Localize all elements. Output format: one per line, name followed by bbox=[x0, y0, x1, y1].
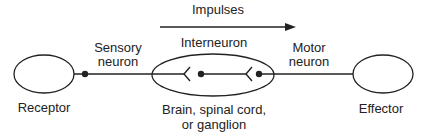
motor-neuron-label-line2: neuron bbox=[289, 54, 329, 69]
sensory-neuron-label-line2: neuron bbox=[98, 54, 138, 69]
reflex-arc-diagram: Impulses Receptor Sensory neuron Brain, … bbox=[0, 0, 423, 137]
cns-label-line1: Brain, spinal cord, bbox=[162, 102, 266, 117]
cns-label-line2: or ganglion bbox=[182, 117, 246, 132]
motor-neuron-label-line1: Motor bbox=[292, 40, 326, 55]
cns-node bbox=[152, 54, 274, 96]
sensory-neuron-label-line1: Sensory bbox=[94, 40, 142, 55]
sensory-synapse-fork bbox=[184, 67, 190, 81]
effector-node bbox=[353, 55, 413, 93]
interneuron-synapse-fork bbox=[246, 67, 252, 81]
effector-label: Effector bbox=[359, 101, 404, 116]
receptor-label: Receptor bbox=[18, 100, 71, 115]
interneuron-label: Interneuron bbox=[181, 35, 248, 50]
impulses-label: Impulses bbox=[192, 2, 245, 17]
receptor-node bbox=[14, 55, 74, 93]
impulse-arrow bbox=[160, 23, 296, 31]
